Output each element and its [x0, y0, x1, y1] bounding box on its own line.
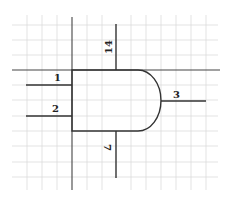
- pin-1-label: 1: [54, 72, 61, 83]
- pin-7-label: 7: [102, 144, 113, 151]
- gate-diagram: 1 2 3 14 7: [0, 0, 230, 199]
- pin-2-label: 2: [52, 103, 59, 114]
- pin-3-label: 3: [173, 89, 180, 100]
- and-gate-body: [72, 70, 161, 131]
- graph-paper-grid: [12, 15, 218, 190]
- pin-14-label: 14: [103, 40, 114, 54]
